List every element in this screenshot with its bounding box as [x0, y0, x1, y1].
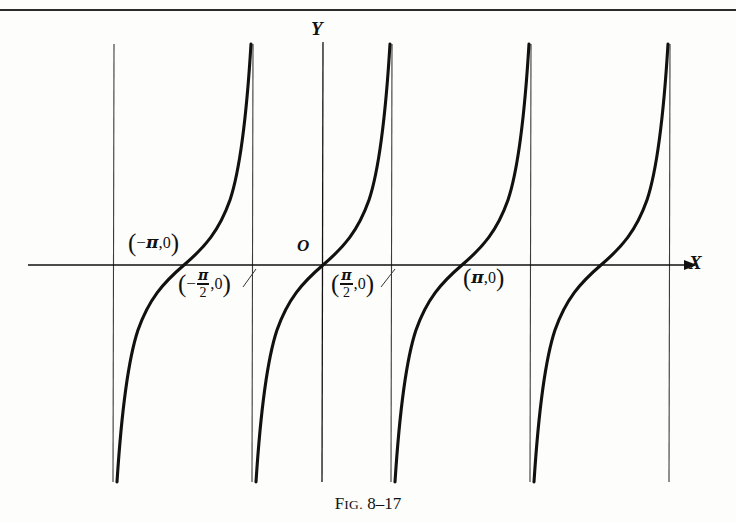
minus-sign: − [186, 274, 196, 293]
zero-value: 0 [358, 275, 366, 292]
paren-close: ) [496, 264, 504, 291]
asymptote-neg-3pi-2 [113, 44, 114, 482]
fraction-numerator: π [197, 268, 209, 283]
fraction-denominator: 2 [342, 285, 351, 300]
paren-close: ) [222, 270, 230, 297]
pi-symbol: π [146, 232, 158, 252]
minus-sign: − [136, 233, 146, 252]
leader-pi-half [381, 269, 395, 287]
fraction-pi-over-2: π2 [197, 268, 209, 300]
y-axis [322, 42, 323, 482]
caption-smallcaps: IG. [344, 497, 363, 512]
paren-open: ( [178, 270, 186, 297]
tangent-curve-plot [0, 0, 736, 496]
fraction-denominator: 2 [199, 285, 208, 300]
asymptote-neg-pi-2 [252, 44, 253, 482]
zero-value: 0 [488, 269, 496, 286]
point-label-neg-pi: (−π,0) [128, 234, 179, 251]
paren-open: ( [331, 270, 339, 297]
plot-svg [0, 0, 736, 496]
tangent-branches [117, 44, 668, 482]
asymptote-5pi-2 [669, 44, 670, 482]
paren-open: ( [463, 264, 471, 291]
tangent-branch-2 [534, 44, 668, 482]
paren-open: ( [128, 229, 136, 256]
zero-value: 0 [163, 234, 171, 251]
point-label-pi: (π,0) [463, 269, 504, 286]
figure-page: Y X O (−π,0) (−π2,0) (π2,0) (π,0) FIG. 8… [0, 0, 736, 522]
point-label-pi-half: (π2,0) [331, 269, 374, 301]
asymptote-lines [113, 44, 670, 482]
y-axis-label: Y [311, 18, 323, 40]
caption-number: 8–17 [367, 494, 401, 513]
origin-label: O [297, 236, 309, 256]
asymptote-3pi-2 [530, 44, 531, 482]
asymptote-pi-2 [391, 44, 392, 482]
paren-close: ) [171, 229, 179, 256]
pi-symbol: π [471, 267, 483, 287]
fraction-pi-over-2: π2 [340, 268, 352, 300]
paren-close: ) [366, 270, 374, 297]
fraction-numerator: π [340, 268, 352, 283]
tangent-branch-1 [395, 44, 529, 482]
leader-neg-pi-half [243, 269, 256, 287]
caption-prefix: F [335, 494, 344, 513]
point-label-neg-pi-half: (−π2,0) [178, 269, 231, 301]
x-axis-label: X [689, 252, 702, 274]
tangent-branch-neg-1 [117, 44, 251, 482]
figure-caption: FIG. 8–17 [0, 494, 736, 514]
